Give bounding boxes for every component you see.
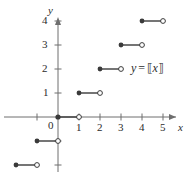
x-axis: [4, 114, 176, 120]
origin-label: 0: [48, 120, 54, 131]
step-segment-3: [119, 43, 145, 48]
step-segment-2: [98, 67, 124, 72]
graph-figure: 4 3 2 1 0 1 2 3 4 5 x y y=⟦x⟧: [0, 0, 191, 178]
step-segment-0: [55, 114, 81, 119]
x-tick-label-3: 3: [118, 122, 124, 133]
y-axis-label: y: [48, 5, 53, 16]
equation-equals: =: [138, 61, 145, 75]
step-segment-neg1: [35, 139, 61, 144]
equation-bracket-close: ⟧: [158, 61, 164, 75]
equation-lhs: y: [131, 61, 136, 75]
x-tick-label-4: 4: [139, 122, 145, 133]
plot-canvas: [0, 0, 191, 178]
equation-annotation: y=⟦x⟧: [131, 62, 163, 74]
y-tick-label-3: 3: [42, 39, 48, 50]
x-tick-label-2: 2: [97, 122, 103, 133]
y-tick-label-1: 1: [43, 87, 49, 98]
y-axis: [55, 17, 61, 172]
y-tick-label-4: 4: [42, 15, 48, 26]
x-tick-label-1: 1: [76, 122, 82, 133]
y-tick-label-2: 2: [42, 63, 48, 74]
step-segment-neg2: [14, 163, 40, 168]
x-tick-label-5: 5: [160, 122, 166, 133]
x-axis-label: x: [178, 122, 183, 133]
step-segment-4: [140, 19, 166, 24]
step-segment-1: [77, 91, 103, 96]
